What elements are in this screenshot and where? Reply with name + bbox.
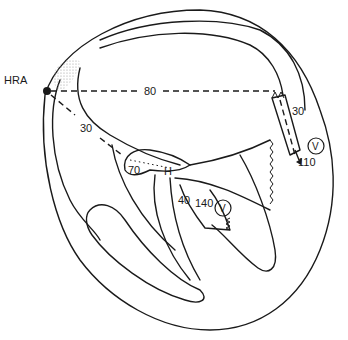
- septal-bundle-left: [154, 175, 190, 280]
- sa-node-region: [54, 59, 80, 92]
- rv-bottom-label: 110: [298, 156, 316, 168]
- hra-to-rv-label: 80: [144, 85, 156, 97]
- lv-v-label: V: [219, 203, 226, 214]
- bundle-fan-upper: [190, 140, 270, 165]
- left-bundle-label: 40: [178, 194, 190, 206]
- atrial-roof-inner-2: [100, 33, 283, 95]
- hra-to-his-path-a: [51, 95, 75, 115]
- his-node-label: 70: [128, 164, 140, 176]
- hra-to-his-label: 30: [80, 122, 92, 134]
- purkinje-fray-right: [270, 140, 273, 204]
- hra-label: HRA: [4, 74, 28, 86]
- rv-top-label: 30: [292, 105, 304, 117]
- hra-electrode-dot: [43, 87, 51, 95]
- right-atrium-wall: [53, 80, 100, 240]
- rv-v-label: V: [312, 141, 319, 152]
- heart-conduction-diagram: HRA 80 30 70 H 30 V 110 40 140 V: [0, 0, 348, 340]
- heart-outer-wall: [43, 10, 333, 330]
- rv-catheter: [272, 95, 300, 155]
- his-marker-label: H: [164, 165, 172, 177]
- right-atrium-inner: [78, 68, 180, 165]
- left-bundle-v-label: 140: [195, 197, 213, 209]
